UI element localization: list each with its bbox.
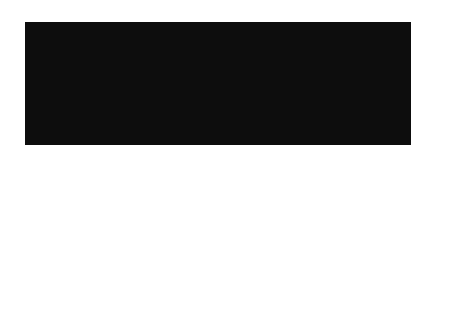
tidal-diagram bbox=[0, 0, 468, 321]
